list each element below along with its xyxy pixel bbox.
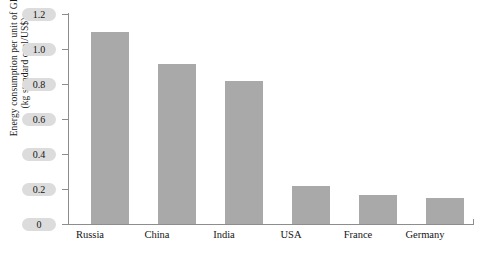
bar-germany[interactable] bbox=[426, 198, 464, 224]
bar-usa[interactable] bbox=[292, 186, 330, 224]
y-tick-label: 0.2 bbox=[22, 183, 56, 196]
bar-india[interactable] bbox=[225, 81, 263, 224]
y-axis-title-line-1: Energy consumption per unit of GDP bbox=[8, 0, 19, 136]
y-tick-label: 0.8 bbox=[22, 78, 56, 91]
bars-layer bbox=[68, 0, 474, 256]
y-tick-label: 0.4 bbox=[22, 148, 56, 161]
y-tick-label: 1.2 bbox=[22, 8, 56, 21]
bar-russia[interactable] bbox=[91, 32, 129, 225]
x-axis-label-germany: Germany bbox=[385, 229, 465, 240]
bar-france[interactable] bbox=[359, 195, 397, 224]
y-tick-label: 0.6 bbox=[22, 113, 56, 126]
bar-chart: Energy consumption per unit of GDP (kg s… bbox=[0, 0, 484, 256]
y-tick-label: 1.0 bbox=[22, 43, 56, 56]
y-axis-title-line-2: (kg standard coal/US$) bbox=[19, 17, 30, 108]
bar-china[interactable] bbox=[158, 64, 196, 224]
